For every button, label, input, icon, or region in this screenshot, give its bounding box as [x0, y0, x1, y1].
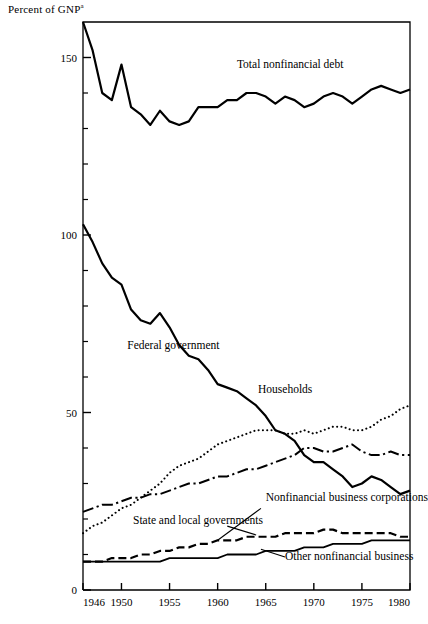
chart-figure: Percent of GNPa 050100150194619501955196… [0, 0, 428, 624]
y-tick-label: 150 [61, 52, 78, 64]
y-axis-title-superscript: a [80, 2, 83, 10]
y-axis-title: Percent of GNPa [8, 2, 84, 15]
series-label-federal-government: Federal government [127, 339, 220, 352]
series-label-state-and-local-governments: State and local governments [133, 514, 264, 527]
y-tick-label: 100 [61, 229, 78, 241]
x-tick-label: 1970 [303, 596, 326, 608]
x-tick-label: 1975 [351, 596, 374, 608]
series-label-other-nonfinancial-business: Other nonfinancial business [285, 550, 414, 562]
x-tick-label: 1955 [159, 596, 182, 608]
series-label-households: Households [258, 383, 313, 395]
x-tick-label: 1980 [388, 596, 411, 608]
x-tick-label: 1950 [110, 596, 133, 608]
y-tick-label: 0 [72, 584, 78, 596]
series-label-total-nonfinancial-debt: Total nonfinancial debt [237, 58, 344, 70]
x-tick-label: 1965 [255, 596, 278, 608]
series-line-total-nonfinancial-debt [83, 22, 410, 125]
series-line-federal-government [83, 224, 410, 494]
series-label-nonfinancial-business-corporations: Nonfinancial business corporations [266, 491, 428, 504]
x-tick-label: 1946 [83, 596, 106, 608]
x-tick-label: 1960 [207, 596, 230, 608]
y-tick-label: 50 [66, 407, 78, 419]
y-axis-title-text: Percent of GNP [8, 3, 80, 15]
line-chart-svg: 0501001501946195019551960196519701975198… [0, 0, 428, 624]
